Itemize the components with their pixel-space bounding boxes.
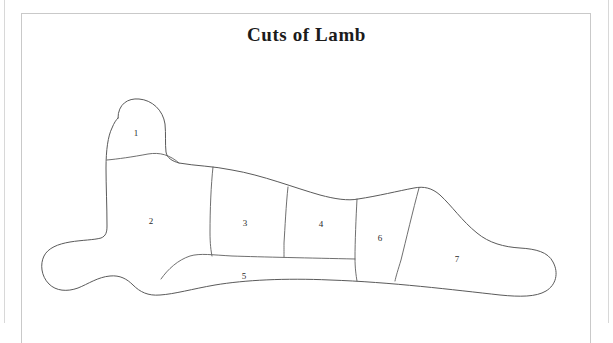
cut-label-5: 5 xyxy=(242,271,247,281)
cut-label-7: 7 xyxy=(455,254,460,264)
cut-label-4: 4 xyxy=(319,219,324,229)
cut-label-3: 3 xyxy=(243,218,248,228)
carcass-outline xyxy=(42,99,556,296)
cut-label-6: 6 xyxy=(378,233,383,243)
cut-label-2: 2 xyxy=(149,216,154,226)
cut-label-1: 1 xyxy=(134,128,139,138)
